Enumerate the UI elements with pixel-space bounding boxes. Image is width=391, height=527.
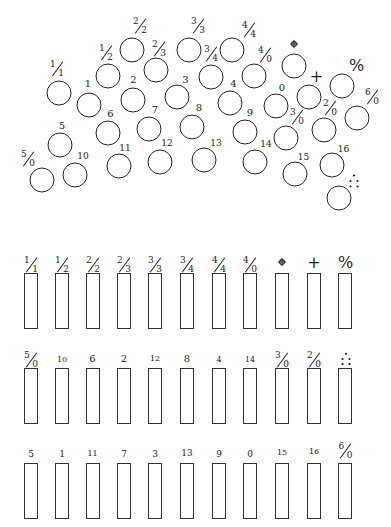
- fraction-label: 6 0: [365, 89, 379, 105]
- denominator: 4: [250, 30, 256, 39]
- slot-label: 16: [309, 447, 319, 457]
- slot-rectangle: [86, 463, 100, 519]
- circle: [233, 120, 258, 145]
- numerator: 5: [21, 150, 27, 159]
- denominator: 0: [298, 117, 304, 126]
- key-label: +: [310, 69, 323, 85]
- circle: [242, 64, 267, 89]
- key-label: 2: [130, 75, 136, 85]
- slot-label: 11: [87, 449, 97, 459]
- denominator: 3: [199, 26, 205, 35]
- fraction-label: 2 3: [117, 257, 131, 273]
- key-label: 16: [338, 144, 349, 154]
- key-label: 10: [77, 151, 88, 161]
- circle: [297, 85, 322, 110]
- slot-label: 0: [247, 449, 253, 459]
- fraction-label: 4 0: [243, 257, 257, 273]
- fraction-label: 3 0: [275, 352, 289, 368]
- numerator: 4: [258, 46, 264, 55]
- slot-rectangle: [117, 368, 131, 424]
- circle: [177, 38, 202, 63]
- slot-rectangle: [212, 368, 226, 424]
- fraction-label: 5 0: [24, 352, 38, 368]
- slot-rectangle: [307, 463, 321, 519]
- circle: [63, 163, 88, 188]
- key-label: 6: [107, 109, 113, 119]
- slot-label: 1: [59, 449, 65, 459]
- circle: [96, 64, 121, 89]
- slot-label: 10: [57, 355, 67, 365]
- key-label: 15: [298, 152, 309, 162]
- slot-rectangle: [24, 368, 38, 424]
- fraction-label: 2 2: [86, 257, 100, 273]
- slot-label: 7: [121, 449, 127, 459]
- key-label: 14: [260, 139, 271, 149]
- circle: [345, 106, 370, 131]
- key-layout-diagram: 1 1 1 2 2 2 2: [0, 0, 391, 527]
- circle: [274, 126, 299, 151]
- numerator: 2: [323, 99, 329, 108]
- slot-rectangle: [275, 273, 289, 329]
- numerator: 4: [242, 21, 248, 30]
- slot-rectangle: [86, 273, 100, 329]
- fraction-label: 3 3: [191, 18, 205, 34]
- numerator: 2: [307, 351, 313, 360]
- fraction-label: 1 1: [24, 257, 38, 273]
- slot-rectangle: [212, 273, 226, 329]
- numerator: 1: [55, 256, 61, 265]
- fraction-label: 4 0: [258, 47, 272, 63]
- circle: [180, 115, 205, 140]
- slot-label: 15: [277, 448, 287, 458]
- slot-rectangle: [117, 273, 131, 329]
- key-label: 12: [161, 138, 172, 148]
- denominator: 0: [347, 451, 353, 460]
- key-label: 1: [85, 79, 91, 89]
- circle: [120, 38, 145, 63]
- slot-rectangle: [338, 463, 352, 519]
- denominator: 2: [141, 26, 147, 35]
- fraction-label: 3 4: [204, 46, 218, 62]
- key-label: 11: [119, 143, 130, 153]
- slot-rectangle: [148, 273, 162, 329]
- numerator: 2: [117, 256, 123, 265]
- slot-label: 3: [152, 449, 158, 459]
- circle: [243, 150, 268, 175]
- fraction-label: 4 4: [242, 22, 256, 38]
- slot-rectangle: [307, 368, 321, 424]
- key-label: 4: [230, 79, 236, 89]
- slot-rectangle: [24, 273, 38, 329]
- circle: [144, 58, 169, 83]
- key-label: %: [349, 58, 364, 74]
- numerator: 5: [24, 351, 30, 360]
- numerator: 3: [180, 256, 186, 265]
- denominator: 0: [331, 108, 337, 117]
- slot-rectangle: [55, 463, 69, 519]
- numerator: 4: [212, 256, 218, 265]
- slot-label: 4: [216, 355, 221, 365]
- slot-rectangle: [180, 463, 194, 519]
- circle: [137, 117, 162, 142]
- numerator: 6: [365, 88, 371, 97]
- key-label: 0: [279, 83, 285, 93]
- slot-label: 14: [245, 355, 255, 365]
- slot-rectangle: [338, 273, 352, 329]
- circle: [47, 81, 72, 106]
- slot-label: 2: [121, 354, 127, 364]
- slot-rectangle: [275, 368, 289, 424]
- fraction-label: 3 0: [290, 109, 304, 125]
- slot-label: 5: [28, 449, 34, 459]
- slot-rectangle: [243, 368, 257, 424]
- numerator: 2: [133, 17, 139, 26]
- fraction-label: 2 2: [133, 18, 147, 34]
- circle: [320, 153, 345, 178]
- fraction-label: 3 3: [148, 257, 162, 273]
- circle: [220, 38, 245, 63]
- denominator: 0: [266, 55, 272, 64]
- slot-rectangle: [117, 463, 131, 519]
- denominator: 1: [58, 69, 64, 78]
- denominator: 0: [29, 159, 35, 168]
- circle: [107, 154, 132, 179]
- circle: [96, 121, 121, 146]
- slot-label: 12: [150, 354, 160, 364]
- denominator: 4: [212, 54, 218, 63]
